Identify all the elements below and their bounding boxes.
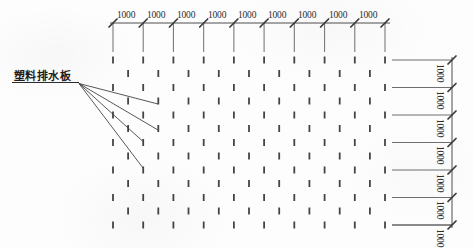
right-dimension-label: 1000 bbox=[435, 119, 445, 137]
right-dimension-label: 1000 bbox=[435, 64, 445, 82]
drain-row-offset bbox=[128, 208, 370, 215]
top-dimension-label: 1000 bbox=[177, 11, 195, 21]
right-dimension-label: 1000 bbox=[435, 91, 445, 109]
right-dimension-label: 1000 bbox=[435, 146, 445, 164]
drain-row-aligned bbox=[113, 222, 385, 229]
drain-row-offset bbox=[128, 98, 370, 105]
right-dimension-label: 1000 bbox=[435, 174, 445, 192]
right-dimension-chain bbox=[392, 56, 456, 229]
top-dimension-label: 1000 bbox=[208, 11, 226, 21]
drain-row-aligned bbox=[113, 139, 385, 146]
callout-leader-line bbox=[79, 84, 158, 131]
drain-row-offset bbox=[128, 125, 370, 132]
top-dimension-label: 1000 bbox=[268, 11, 286, 21]
drain-row-aligned bbox=[113, 194, 385, 201]
drain-mark-grid bbox=[113, 57, 385, 229]
drain-row-offset bbox=[128, 180, 370, 187]
top-dimension-label: 1000 bbox=[359, 11, 377, 21]
top-dimension-label: 1000 bbox=[329, 11, 347, 21]
drain-row-aligned bbox=[113, 57, 385, 64]
callout-leader-group bbox=[12, 83, 158, 169]
drain-row-offset bbox=[128, 70, 370, 77]
top-dimension-chain bbox=[109, 19, 390, 52]
top-dimension-label: 1000 bbox=[298, 11, 316, 21]
engineering-drawing-canvas bbox=[0, 0, 473, 248]
top-extension-lines bbox=[113, 23, 385, 52]
drain-row-offset bbox=[128, 153, 370, 160]
callout-label-plastic-drainage-board: 塑料排水板 bbox=[14, 67, 71, 83]
right-dimension-label: 1000 bbox=[435, 229, 445, 247]
drain-row-aligned bbox=[113, 112, 385, 119]
top-dimension-label: 1000 bbox=[238, 11, 256, 21]
drawing-sheet: 1000 1000 1000 1000 1000 1000 1000 1000 … bbox=[0, 0, 473, 248]
drain-row-aligned bbox=[113, 84, 385, 91]
top-dimension-label: 1000 bbox=[117, 11, 135, 21]
callout-leader-line bbox=[79, 84, 143, 169]
right-dimension-label: 1000 bbox=[435, 201, 445, 219]
drain-row-aligned bbox=[113, 167, 385, 174]
top-dimension-label: 1000 bbox=[147, 11, 165, 21]
